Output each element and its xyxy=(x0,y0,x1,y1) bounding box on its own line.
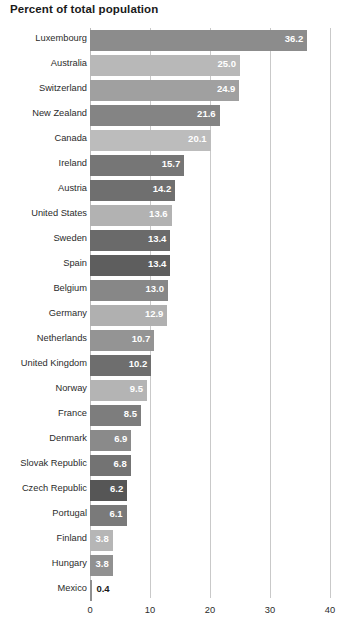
x-tick-label: 20 xyxy=(195,604,225,616)
bar-value-label: 13.6 xyxy=(144,207,168,220)
bar-row: Ireland15.7 xyxy=(0,153,339,178)
bar-row: Switzerland24.9 xyxy=(0,78,339,103)
bar-row: France8.5 xyxy=(0,403,339,428)
bar-value-label: 20.1 xyxy=(183,132,207,145)
chart-title: Percent of total population xyxy=(10,3,158,15)
bar-value-label: 9.5 xyxy=(119,382,143,395)
bar-row: Luxembourg36.2 xyxy=(0,28,339,53)
bar-value-label: 13.4 xyxy=(142,232,166,245)
bar-row: Spain13.4 xyxy=(0,253,339,278)
x-tick-label: 30 xyxy=(255,604,285,616)
category-label: Netherlands xyxy=(0,332,87,345)
category-label: Hungary xyxy=(0,557,87,570)
bar-row: United Kingdom10.2 xyxy=(0,353,339,378)
category-label: United States xyxy=(0,207,87,220)
category-label: Sweden xyxy=(0,232,87,245)
bar-value-label: 6.8 xyxy=(103,457,127,470)
bar-value-label: 10.7 xyxy=(126,332,150,345)
bar-value-label: 8.5 xyxy=(113,407,137,420)
category-label: New Zealand xyxy=(0,107,87,120)
bar-row: Belgium13.0 xyxy=(0,278,339,303)
bar-row: Finland3.8 xyxy=(0,528,339,553)
bar-value-label: 3.8 xyxy=(85,532,109,545)
category-label: Ireland xyxy=(0,157,87,170)
category-label: United Kingdom xyxy=(0,357,87,370)
category-label: Mexico xyxy=(0,582,87,595)
bar xyxy=(90,30,307,51)
bar-value-label: 0.4 xyxy=(96,582,109,595)
bar-value-label: 10.2 xyxy=(123,357,147,370)
category-label: Luxembourg xyxy=(0,32,87,45)
x-tick-label: 0 xyxy=(75,604,105,616)
bar-value-label: 6.9 xyxy=(103,432,127,445)
bar-value-label: 24.9 xyxy=(211,82,235,95)
bar-row: Hungary3.8 xyxy=(0,553,339,578)
bar-row: Portugal6.1 xyxy=(0,503,339,528)
category-label: Australia xyxy=(0,57,87,70)
x-tick-label: 10 xyxy=(135,604,165,616)
bar-row: Netherlands10.7 xyxy=(0,328,339,353)
category-label: Belgium xyxy=(0,282,87,295)
category-label: Slovak Republic xyxy=(0,457,87,470)
category-label: Denmark xyxy=(0,432,87,445)
bar-row: Norway9.5 xyxy=(0,378,339,403)
category-label: Czech Republic xyxy=(0,482,87,495)
bar-row: Austria14.2 xyxy=(0,178,339,203)
category-label: Portugal xyxy=(0,507,87,520)
bar-row: Slovak Republic6.8 xyxy=(0,453,339,478)
bar-row: Czech Republic6.2 xyxy=(0,478,339,503)
plot-area: Luxembourg36.2Australia25.0Switzerland24… xyxy=(0,28,339,598)
bar-value-label: 25.0 xyxy=(212,57,236,70)
category-label: Austria xyxy=(0,182,87,195)
category-label: Switzerland xyxy=(0,82,87,95)
category-label: France xyxy=(0,407,87,420)
bar-value-label: 14.2 xyxy=(147,182,171,195)
category-label: Germany xyxy=(0,307,87,320)
bar-value-label: 12.9 xyxy=(139,307,163,320)
bar-value-label: 36.2 xyxy=(279,32,303,45)
bar-row: Australia25.0 xyxy=(0,53,339,78)
bar-row: Germany12.9 xyxy=(0,303,339,328)
x-tick-label: 40 xyxy=(315,604,339,616)
x-axis: 010203040 xyxy=(0,598,339,627)
bar-row: New Zealand21.6 xyxy=(0,103,339,128)
category-label: Finland xyxy=(0,532,87,545)
bar-value-label: 21.6 xyxy=(192,107,216,120)
bar-value-label: 15.7 xyxy=(156,157,180,170)
bar-row: Canada20.1 xyxy=(0,128,339,153)
category-label: Spain xyxy=(0,257,87,270)
bar-track xyxy=(90,30,307,51)
bar-row: United States13.6 xyxy=(0,203,339,228)
category-label: Canada xyxy=(0,132,87,145)
bar-row: Sweden13.4 xyxy=(0,228,339,253)
bar-value-label: 6.2 xyxy=(99,482,123,495)
category-label: Norway xyxy=(0,382,87,395)
bar-row: Denmark6.9 xyxy=(0,428,339,453)
bar-chart: Percent of total population Luxembourg36… xyxy=(0,0,339,627)
bar-value-label: 13.4 xyxy=(142,257,166,270)
bar-value-label: 3.8 xyxy=(85,557,109,570)
bar-value-label: 13.0 xyxy=(140,282,164,295)
bar-value-label: 6.1 xyxy=(99,507,123,520)
